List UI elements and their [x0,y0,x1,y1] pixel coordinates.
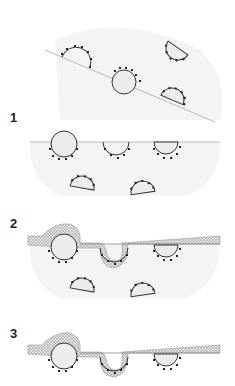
panel-2 [28,224,220,298]
panel-label-2: 2 [10,216,17,231]
panel-3 [28,333,220,377]
panel-0 [45,27,223,122]
panel-label-1: 1 [10,110,17,125]
shell-half-down [153,354,181,370]
panel-1 [30,131,220,196]
diagram-canvas [0,0,235,386]
panel-label-3: 3 [10,326,17,341]
background-region [55,27,223,120]
